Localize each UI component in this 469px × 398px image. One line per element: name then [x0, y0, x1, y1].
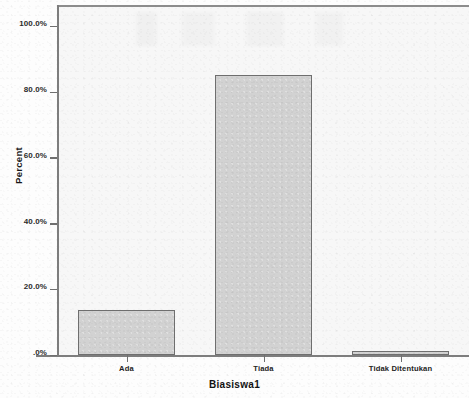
- y-axis-tick-label: 80.0%: [24, 85, 47, 94]
- x-axis-tick-label: Tiada: [195, 364, 332, 373]
- y-axis-tick-mark: [50, 223, 57, 225]
- bar-tiada: [215, 75, 312, 355]
- y-axis-tick-mark: [50, 289, 57, 291]
- y-axis-tick-mark: [50, 26, 57, 28]
- y-axis-tick-label: 40.0%: [24, 217, 47, 226]
- bar-ada: [78, 310, 175, 355]
- y-axis-tick-mark: [50, 157, 57, 159]
- bar-chart: .0%20.0%40.0%60.0%80.0%100.0% Percent Ad…: [0, 0, 469, 398]
- y-axis-tick-mark: [50, 92, 57, 94]
- x-axis-title: Biasiswa1: [0, 379, 469, 390]
- x-axis-tick-label: Ada: [58, 364, 195, 373]
- y-axis-tick-mark: [50, 355, 57, 357]
- x-axis-tick-mark: [127, 355, 128, 362]
- y-axis-tick-label: .0%: [33, 348, 47, 357]
- y-axis-line: [57, 5, 59, 356]
- y-axis-tick-label: 60.0%: [24, 151, 47, 160]
- y-axis-tick-label: 100.0%: [19, 19, 47, 28]
- x-axis-tick-mark: [264, 355, 265, 362]
- x-axis-tick-mark: [401, 355, 402, 362]
- x-axis-line: [36, 355, 469, 357]
- y-axis-tick-label: 20.0%: [24, 282, 47, 291]
- y-axis-title: Percent: [13, 126, 24, 206]
- x-axis-tick-label: Tidak Ditentukan: [332, 364, 469, 373]
